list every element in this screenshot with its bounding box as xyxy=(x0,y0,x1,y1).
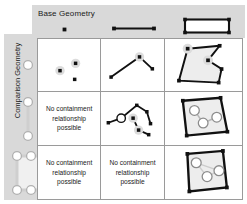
cell-no-containment-polygon-line: No containment relationship possible xyxy=(101,146,164,199)
cell-points-on-line xyxy=(101,39,164,92)
polygon-icon xyxy=(13,152,37,195)
line-on-line-diagram xyxy=(107,104,153,137)
cell-points-in-point xyxy=(38,39,101,92)
column-header-point xyxy=(32,5,100,38)
points-in-polygon-diagram xyxy=(177,44,223,85)
line-icon xyxy=(112,27,156,31)
row-header-line xyxy=(4,92,37,146)
points-on-line-diagram xyxy=(110,52,155,79)
no-containment-text: No containment relationship possible xyxy=(101,146,163,199)
matrix-grid: No containment relationship possible xyxy=(37,38,243,200)
line-icon xyxy=(24,98,33,141)
cell-line-in-polygon xyxy=(165,92,242,145)
no-containment-text: No containment relationship possible xyxy=(38,146,100,199)
cell-no-containment-polygon-point: No containment relationship possible xyxy=(38,146,101,199)
cell-no-containment-line-point: No containment relationship possible xyxy=(38,92,101,145)
row-header-polygon xyxy=(4,146,37,200)
row-header-point xyxy=(4,38,37,92)
column-header-line xyxy=(100,5,168,38)
cell-line-on-line xyxy=(101,92,164,145)
no-containment-text: No containment relationship possible xyxy=(38,92,100,144)
line-in-polygon-diagram xyxy=(181,96,229,137)
polygon-in-polygon-diagram xyxy=(185,149,228,193)
point-icon xyxy=(63,28,67,32)
column-header-polygon xyxy=(168,5,245,38)
points-in-point-diagram xyxy=(55,59,80,81)
cell-polygon-in-polygon xyxy=(165,146,242,199)
point-icon xyxy=(24,61,33,70)
polygon-icon xyxy=(183,18,231,35)
cell-points-in-polygon xyxy=(165,39,242,92)
containment-matrix-figure: Base Geometry Comparison Geometry xyxy=(0,0,247,204)
